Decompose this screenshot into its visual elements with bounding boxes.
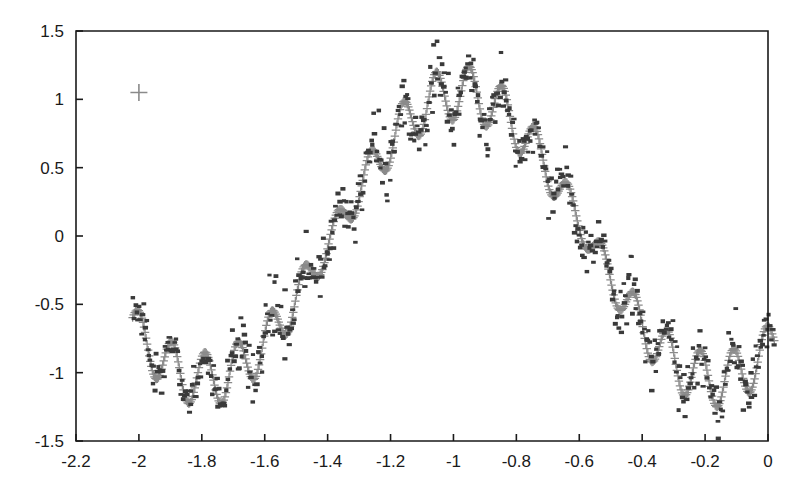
y-axis-tick-label: -0.5 (35, 295, 64, 314)
y-axis-tick-label: 1.5 (40, 22, 64, 41)
x-axis-tick-label: -2 (131, 452, 146, 471)
y-axis-tick-label: -1.5 (35, 432, 64, 451)
x-axis-tick-label: -1.8 (187, 452, 216, 471)
chart-figure: 1.510.50-0.5-1-1.5-2.2-2-1.8-1.6-1.4-1.2… (0, 0, 797, 497)
y-axis-tick-label: 1 (55, 90, 64, 109)
x-axis-tick-label: -2.2 (61, 452, 90, 471)
x-axis-tick-label: -0.2 (690, 452, 719, 471)
x-axis-tick-label: -0.6 (565, 452, 594, 471)
x-axis-tick-label: -1.4 (313, 452, 342, 471)
x-axis-tick-label: 0 (763, 452, 772, 471)
x-axis-tick-label: -0.8 (502, 452, 531, 471)
x-axis-tick-label: -1.2 (376, 452, 405, 471)
y-axis-tick-label: 0.5 (40, 159, 64, 178)
chart-background (0, 0, 797, 497)
y-axis-tick-label: -1 (49, 364, 64, 383)
scatter-plot: 1.510.50-0.5-1-1.5-2.2-2-1.8-1.6-1.4-1.2… (0, 0, 797, 497)
x-axis-tick-label: -0.4 (628, 452, 657, 471)
y-axis-tick-label: 0 (55, 227, 64, 246)
x-axis-tick-label: -1 (446, 452, 461, 471)
x-axis-tick-label: -1.6 (250, 452, 279, 471)
